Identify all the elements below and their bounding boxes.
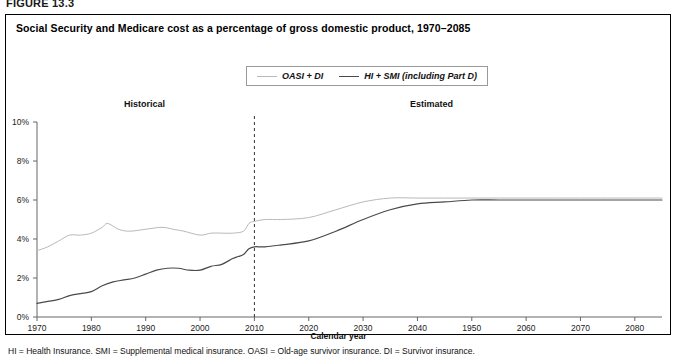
- legend-label-hi-smi: HI + SMI (including Part D): [364, 71, 477, 81]
- y-tick-label: 0%: [3, 312, 29, 322]
- chart-footnote: HI = Health Insurance. SMI = Supplementa…: [8, 346, 475, 356]
- chart-panel: [5, 14, 671, 335]
- legend-entry-oasi-di[interactable]: OASI + DI: [257, 71, 323, 81]
- legend-line-icon-oasi-di: [257, 76, 277, 77]
- y-tick-label: 2%: [3, 273, 29, 283]
- x-axis-title: Calendar year: [0, 331, 677, 341]
- legend-label-oasi-di: OASI + DI: [282, 71, 323, 81]
- y-tick-label: 4%: [3, 234, 29, 244]
- legend-line-icon-hi-smi: [339, 76, 359, 77]
- legend-entry-hi-smi[interactable]: HI + SMI (including Part D): [339, 71, 477, 81]
- y-tick-label: 10%: [3, 117, 29, 127]
- figure-label: FIGURE 13.3: [6, 0, 74, 9]
- annotation-estimated: Estimated: [410, 99, 453, 109]
- annotation-historical: Historical: [124, 99, 165, 109]
- y-tick-label: 6%: [3, 195, 29, 205]
- chart-title: Social Security and Medicare cost as a p…: [16, 22, 470, 34]
- y-tick-label: 8%: [3, 156, 29, 166]
- chart-legend: OASI + DI HI + SMI (including Part D): [246, 66, 488, 86]
